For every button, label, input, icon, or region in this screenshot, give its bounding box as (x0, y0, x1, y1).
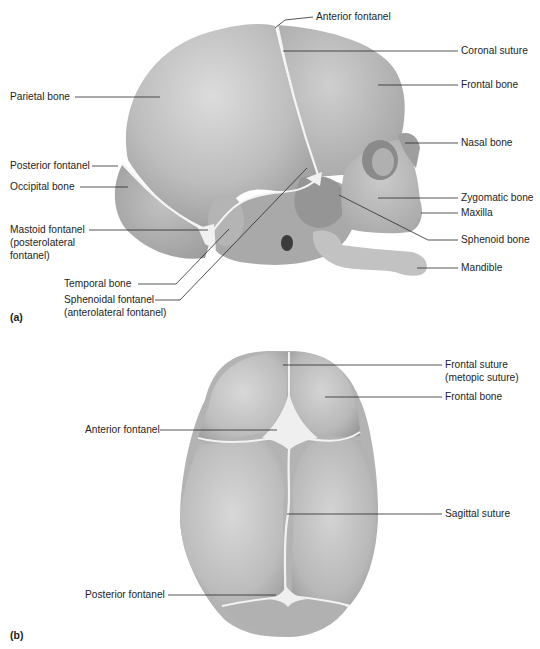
label-nasal-bone: Nasal bone (461, 137, 513, 149)
ear-opening (281, 235, 293, 251)
label-occipital-bone: Occipital bone (10, 181, 75, 193)
panel-tag-a: (a) (10, 311, 23, 323)
label-mastoid-fontanel-line1: Mastoid fontanel (10, 224, 85, 236)
label-zygomatic-bone: Zygomatic bone (461, 192, 533, 204)
lateral-skull (115, 24, 427, 276)
label-sagittal-suture: Sagittal suture (445, 508, 510, 520)
label-maxilla: Maxilla (461, 207, 493, 219)
label-sphenoid-bone: Sphenoid bone (461, 234, 530, 246)
label-mandible: Mandible (461, 262, 502, 274)
skull-illustration (0, 0, 540, 649)
label-frontal-suture-line2: (metopic suture) (445, 372, 519, 384)
label-coronal-suture: Coronal suture (461, 45, 528, 57)
label-sphenoidal-fontanel-line2: (anterolateral fontanel) (64, 307, 167, 319)
label-temporal-bone: Temporal bone (64, 278, 131, 290)
superior-skull (180, 351, 378, 637)
parietal-left-shape (180, 440, 285, 605)
label-anterior-fontanel-b: Anterior fontanel (85, 424, 160, 436)
label-frontal-suture-line1: Frontal suture (445, 359, 508, 371)
label-frontal-bone-b: Frontal bone (445, 391, 502, 403)
label-mastoid-fontanel-line2: (posterolateral (10, 237, 75, 249)
label-parietal-bone: Parietal bone (10, 91, 70, 103)
label-mastoid-fontanel-line3: fontanel) (10, 250, 50, 262)
panel-tag-b: (b) (10, 629, 23, 641)
label-posterior-fontanel-b: Posterior fontanel (85, 589, 165, 601)
fetal-skull-figure: Anterior fontanel Coronal suture Frontal… (0, 0, 540, 649)
label-posterior-fontanel-a: Posterior fontanel (10, 160, 90, 172)
parietal-right-shape (292, 440, 378, 605)
orbit-inner (372, 148, 394, 176)
label-frontal-bone-a: Frontal bone (461, 79, 518, 91)
label-anterior-fontanel-a: Anterior fontanel (316, 11, 391, 23)
mandible-shape (313, 231, 427, 276)
label-sphenoidal-fontanel-line1: Sphenoidal fontanel (64, 294, 154, 306)
